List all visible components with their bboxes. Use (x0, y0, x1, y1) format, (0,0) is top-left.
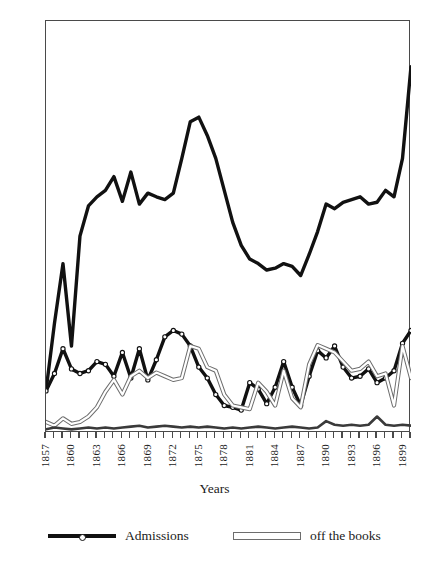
x-axis-tick (367, 432, 368, 438)
x-axis-tick (61, 432, 62, 438)
x-axis-tick (299, 432, 300, 438)
legend-swatch-off-the-books (233, 532, 301, 540)
legend-label-off-the-books: off the books (310, 528, 381, 544)
x-axis-tick-label: 1893 (345, 444, 357, 467)
series-marker-admissions (409, 328, 411, 332)
x-axis-title: Years (0, 481, 429, 497)
x-axis-tick (291, 432, 292, 438)
series-marker-admissions (248, 381, 252, 385)
x-axis-tick-label: 1896 (370, 444, 382, 467)
x-axis-tick-label: 1881 (243, 444, 255, 467)
x-axis-tick (231, 432, 232, 438)
series-marker-admissions (265, 402, 269, 406)
x-axis-tick (70, 432, 71, 438)
series-marker-admissions (78, 371, 82, 375)
series-marker-admissions (154, 358, 158, 362)
plot-svg (46, 21, 411, 433)
series-marker-admissions (375, 381, 379, 385)
series-marker-admissions (163, 335, 167, 339)
series-marker-admissions (112, 374, 116, 378)
x-axis-tick-label: 1887 (294, 444, 306, 467)
x-axis-tick (53, 432, 54, 438)
x-axis-tick-label: 1899 (396, 444, 408, 467)
series-marker-admissions (324, 356, 328, 360)
x-axis-tick (350, 432, 351, 438)
series-marker-admissions (273, 385, 277, 389)
legend-label-admissions: Admissions (125, 528, 189, 544)
x-axis-tick (409, 432, 410, 438)
x-axis-tick-label: 1890 (319, 444, 331, 467)
series-line-total-resident-population (46, 67, 411, 391)
x-axis-tick (172, 432, 173, 438)
x-axis-tick (197, 432, 198, 438)
plot-area (45, 20, 410, 432)
x-axis-tick (189, 432, 190, 438)
legend-item-off-the-books: off the books (233, 528, 381, 544)
series-line-off-the-books-core (46, 345, 411, 426)
x-axis-tick (308, 432, 309, 438)
series-marker-admissions (205, 376, 209, 380)
series-marker-admissions (137, 347, 141, 351)
x-axis-tick (274, 432, 275, 438)
x-axis-tick-label: 1884 (268, 444, 280, 467)
x-axis-tick (375, 432, 376, 438)
series-marker-admissions (52, 371, 56, 375)
chart-legend: Admissions off the books (0, 528, 429, 544)
x-axis-tick (401, 432, 402, 438)
x-axis-tick (78, 432, 79, 438)
series-marker-admissions (61, 347, 65, 351)
x-axis-tick (341, 432, 342, 438)
y-axis: 050100150200250300350400450 (0, 0, 45, 452)
series-marker-admissions (103, 362, 107, 366)
x-axis-tick-label: 1872 (166, 444, 178, 467)
x-axis-tick (87, 432, 88, 438)
x-axis-tick (257, 432, 258, 438)
series-marker-admissions (214, 392, 218, 396)
x-axis-tick (392, 432, 393, 438)
x-axis-tick-label: 1875 (192, 444, 204, 467)
x-axis-tick (146, 432, 147, 438)
x-axis-tick (104, 432, 105, 438)
x-axis-tick (206, 432, 207, 438)
series-marker-admissions (120, 350, 124, 354)
series-marker-admissions (95, 359, 99, 363)
x-axis-tick (358, 432, 359, 438)
x-axis-tick (333, 432, 334, 438)
series-marker-admissions (222, 403, 226, 407)
x-axis-tick (180, 432, 181, 438)
series-marker-admissions (349, 376, 353, 380)
x-axis-tick (129, 432, 130, 438)
x-axis-tick-label: 1878 (217, 444, 229, 467)
x-axis-tick (95, 432, 96, 438)
chart-figure: 050100150200250300350400450 185718601863… (0, 0, 429, 571)
x-axis-tick-label: 1866 (115, 444, 127, 467)
series-marker-admissions (392, 369, 396, 373)
series-marker-admissions (171, 328, 175, 332)
x-axis-tick (223, 432, 224, 438)
x-axis-tick (265, 432, 266, 438)
series-marker-admissions (358, 374, 362, 378)
x-axis-tick (121, 432, 122, 438)
x-axis-tick (325, 432, 326, 438)
x-axis-tick (112, 432, 113, 438)
x-axis-tick (384, 432, 385, 438)
x-axis-tick (214, 432, 215, 438)
x-axis-tick-label: 1857 (39, 444, 51, 467)
series-marker-admissions (197, 365, 201, 369)
series-marker-admissions (333, 344, 337, 348)
x-axis-tick (316, 432, 317, 438)
series-line-off-the-books-outline (46, 345, 411, 426)
x-axis-tick (240, 432, 241, 438)
series-marker-admissions (180, 332, 184, 336)
legend-item-admissions: Admissions (48, 528, 189, 544)
x-axis-tick-label: 1863 (90, 444, 102, 467)
x-axis-tick (163, 432, 164, 438)
x-axis-tick-label: 1860 (64, 444, 76, 467)
x-axis-tick (44, 432, 45, 438)
legend-swatch-admissions (48, 532, 116, 541)
series-marker-admissions (46, 389, 48, 393)
x-axis-tick (138, 432, 139, 438)
series-marker-admissions (282, 359, 286, 363)
series-line-deaths (46, 417, 411, 430)
series-marker-admissions (69, 367, 73, 371)
